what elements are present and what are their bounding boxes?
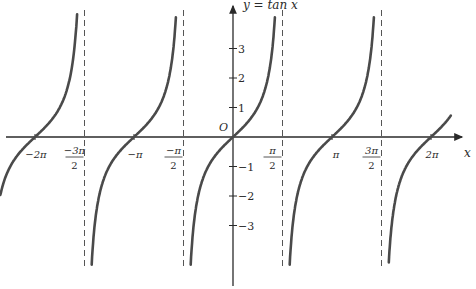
x-tick-label: −π <box>128 149 143 160</box>
x-tick-label-denominator: 2 <box>170 160 176 171</box>
x-tick-label-denominator: 2 <box>269 160 275 171</box>
x-tick-label-denominator: 2 <box>71 160 77 171</box>
y-tick-label: −1 <box>238 161 254 174</box>
y-tick-label: 2 <box>238 72 245 85</box>
tan-curve-branch-4 <box>290 17 374 264</box>
x-tick-label-numerator: 3π <box>365 145 378 156</box>
x-tick-label-denominator: 2 <box>368 160 374 171</box>
y-axis-label: y = tan x <box>242 0 298 12</box>
y-tick-label: 3 <box>238 43 245 56</box>
x-axis-label: x <box>464 146 471 160</box>
y-tick-label: −3 <box>238 220 254 233</box>
tan-curve-branch-2 <box>92 17 176 264</box>
x-tick-label-numerator: −3π <box>64 145 86 156</box>
tan-graph: −2π−3π2−π−π2π2π3π22π321−1−2−3 y = tan x … <box>0 0 476 289</box>
x-tick-label-numerator: π <box>268 145 276 156</box>
tan-curve-branch-1 <box>0 14 77 195</box>
x-tick-label-numerator: −π <box>166 145 181 156</box>
y-tick-label: 1 <box>238 102 245 115</box>
x-tick-label: π <box>332 149 340 160</box>
x-tick-label: −2π <box>25 149 47 160</box>
origin-label: O <box>219 121 228 134</box>
tan-curves <box>0 14 451 264</box>
x-tick-label: 2π <box>425 149 439 160</box>
y-tick-label: −2 <box>238 190 254 203</box>
